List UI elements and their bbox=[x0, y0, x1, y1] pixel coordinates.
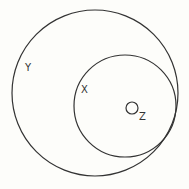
label-z: Z bbox=[139, 111, 146, 122]
circle-x bbox=[74, 55, 176, 157]
circle-y bbox=[12, 10, 178, 176]
circle-z bbox=[126, 102, 138, 114]
venn-diagram: Y X Z bbox=[0, 0, 189, 189]
label-y: Y bbox=[24, 62, 32, 73]
label-x: X bbox=[81, 84, 88, 95]
